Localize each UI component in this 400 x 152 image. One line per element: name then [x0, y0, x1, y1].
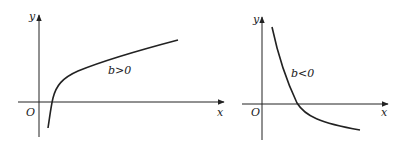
- right-curve: [272, 27, 360, 130]
- right-origin-label: O: [251, 106, 260, 119]
- right-figure: y O x b<0: [242, 13, 388, 140]
- right-x-label: x: [381, 106, 388, 119]
- left-origin-label: O: [26, 106, 35, 119]
- diagram-canvas: y O x b>0 y O x b<0: [0, 0, 400, 152]
- right-curve-label: b<0: [291, 67, 314, 80]
- left-x-label: x: [217, 106, 224, 119]
- left-y-label: y: [28, 10, 36, 23]
- left-curve-label: b>0: [108, 64, 131, 77]
- left-figure: y O x b>0: [18, 10, 224, 137]
- right-y-label: y: [252, 13, 260, 26]
- left-curve: [48, 40, 178, 128]
